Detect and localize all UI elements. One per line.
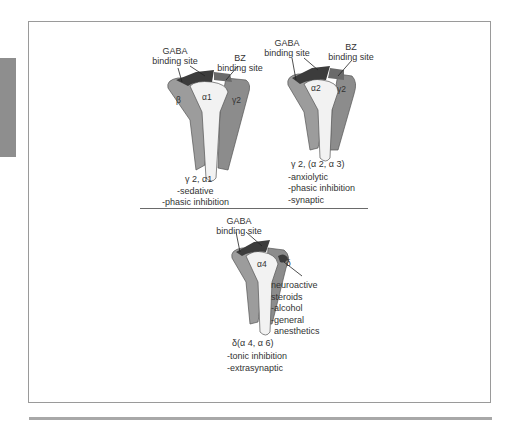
r2-bz-line2: binding site (322, 52, 380, 62)
r2-bz-label: BZ binding site (322, 42, 380, 62)
r3-subtype: δ(α 4, α 6) (232, 338, 273, 348)
r3-gaba-line1: GABA (214, 216, 264, 226)
r2-property: -anxiolytic (288, 172, 328, 182)
r1-alpha-subunit: α1 (202, 92, 212, 102)
r3-delta-subunit: δ (286, 258, 291, 268)
r2-bz-line1: BZ (322, 42, 380, 52)
r3-modulator: steroids (271, 292, 320, 304)
r1-subtype: γ 2, α1 (185, 174, 212, 184)
r3-gaba-label: GABA binding site (214, 216, 264, 236)
r1-bz-line1: BZ (212, 53, 268, 63)
r2-gaba-line2: binding site (262, 48, 312, 58)
r3-alpha-subunit: α4 (257, 259, 267, 269)
r2-gamma-subunit: γ2 (337, 84, 346, 94)
r2-property: -synaptic (288, 195, 324, 205)
r3-property: -tonic inhibition (227, 351, 287, 361)
r1-gaba-label: GABA binding site (150, 46, 200, 66)
r2-property: -phasic inhibition (288, 183, 355, 193)
r1-property: -phasic inhibition (162, 197, 229, 207)
r1-gaba-line1: GABA (150, 46, 200, 56)
r1-bz-line2: binding site (212, 63, 268, 73)
r1-gamma-subunit: γ2 (232, 95, 241, 105)
r2-alpha-subunit: α2 (311, 83, 321, 93)
r2-subtype: γ 2, (α 2, α 3) (291, 159, 344, 169)
r1-bz-label: BZ binding site (212, 53, 268, 73)
r1-beta-subunit: β (176, 95, 181, 105)
r3-modulator: anesthetics (271, 326, 320, 338)
r3-modulator: neuroactive (271, 280, 320, 292)
r3-modulator: -general (271, 315, 320, 327)
receptor-1-shape (168, 66, 250, 181)
r3-property: -extrasynaptic (227, 363, 283, 373)
r2-gaba-line1: GABA (262, 38, 312, 48)
r3-gaba-line2: binding site (214, 226, 264, 236)
r3-modulator: -alcohol (271, 303, 320, 315)
receptor-2-shape (288, 58, 356, 161)
r1-property: -sedative (177, 186, 214, 196)
r1-gaba-line2: binding site (150, 56, 200, 66)
r3-modulators: neuroactive steroids -alcohol -general a… (271, 280, 320, 338)
r2-gaba-label: GABA binding site (262, 38, 312, 58)
